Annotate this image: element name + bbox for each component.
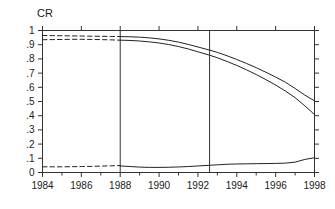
y-axis-tick-labels: 0.1.2.3.4.5.6.7.8.91	[26, 25, 35, 178]
y-tick-label: 1	[29, 25, 35, 36]
x-tick-label: 1990	[148, 180, 171, 191]
x-tick-label: 1996	[265, 180, 288, 191]
x-tick-label: 1988	[109, 180, 132, 191]
x-tick-label: 1998	[303, 180, 326, 191]
y-tick-label: .9	[26, 39, 35, 50]
x-tick-label: 1984	[31, 180, 54, 191]
line-chart: CR 19841986198819901992199419961998 0.1.…	[0, 0, 335, 209]
chart-background	[0, 0, 335, 209]
y-tick-label: .1	[26, 153, 35, 164]
y-tick-label: 0	[29, 167, 35, 178]
chart-container: CR 19841986198819901992199419961998 0.1.…	[0, 0, 335, 209]
y-tick-label: .5	[26, 96, 35, 107]
y-tick-label: .8	[26, 53, 35, 64]
x-tick-label: 1992	[187, 180, 210, 191]
y-tick-label: .7	[26, 68, 35, 79]
y-tick-label: .3	[26, 124, 35, 135]
y-tick-label: .4	[26, 110, 35, 121]
y-tick-label: .6	[26, 82, 35, 93]
y-tick-label: .2	[26, 139, 35, 150]
chart-title: CR	[37, 7, 53, 19]
x-tick-label: 1986	[70, 180, 93, 191]
x-tick-label: 1994	[226, 180, 249, 191]
